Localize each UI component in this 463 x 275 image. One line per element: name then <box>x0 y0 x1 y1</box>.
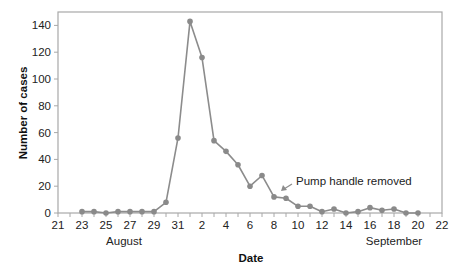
data-point-marker <box>163 199 169 205</box>
data-point-marker <box>247 183 253 189</box>
x-tick-label: 16 <box>364 219 377 231</box>
y-axis-ticks: 020406080100120140 <box>32 19 58 219</box>
x-tick-label: 31 <box>172 219 185 231</box>
month-label: September <box>366 235 422 247</box>
data-point-marker <box>235 162 241 168</box>
y-axis-title: Number of cases <box>17 67 29 160</box>
annotation: Pump handle removed <box>281 175 412 191</box>
data-point-marker <box>283 195 289 201</box>
x-tick-label: 22 <box>436 219 449 231</box>
data-point-marker <box>103 210 109 216</box>
data-point-marker <box>211 138 217 144</box>
y-tick-label: 40 <box>38 153 51 165</box>
data-point-marker <box>355 209 361 215</box>
data-point-marker <box>391 206 397 212</box>
x-tick-label: 10 <box>292 219 305 231</box>
x-tick-label: 2 <box>199 219 205 231</box>
x-tick-label: 8 <box>271 219 277 231</box>
x-tick-label: 27 <box>124 219 137 231</box>
data-point-marker <box>175 135 181 141</box>
data-point-marker <box>115 209 121 215</box>
x-tick-label: 12 <box>316 219 329 231</box>
data-point-marker <box>151 209 157 215</box>
x-tick-label: 20 <box>412 219 425 231</box>
data-point-marker <box>139 209 145 215</box>
data-point-marker <box>199 55 205 61</box>
annotation-label: Pump handle removed <box>296 175 412 187</box>
x-axis-title: Date <box>239 252 264 264</box>
data-point-marker <box>79 209 85 215</box>
data-point-marker <box>343 210 349 216</box>
y-tick-label: 60 <box>38 127 51 139</box>
y-tick-label: 80 <box>38 100 51 112</box>
x-tick-label: 21 <box>52 219 65 231</box>
x-tick-label: 18 <box>388 219 401 231</box>
data-point-marker <box>223 149 229 155</box>
y-tick-label: 20 <box>38 180 51 192</box>
y-tick-label: 140 <box>32 19 51 31</box>
x-tick-label: 14 <box>340 219 353 231</box>
x-tick-label: 25 <box>100 219 113 231</box>
month-label: August <box>106 235 143 247</box>
data-point-marker <box>271 194 277 200</box>
data-point-marker <box>307 204 313 210</box>
month-labels: AugustSeptember <box>106 235 422 247</box>
data-point-marker <box>295 204 301 210</box>
data-point-marker <box>367 205 373 211</box>
x-tick-label: 4 <box>223 219 230 231</box>
data-point-marker <box>403 210 409 216</box>
x-tick-label: 6 <box>247 219 253 231</box>
x-tick-label: 23 <box>76 219 89 231</box>
cholera-epidemic-chart: 020406080100120140 212325272931246810121… <box>0 0 463 275</box>
y-tick-label: 0 <box>45 207 51 219</box>
x-axis-ticks: 212325272931246810121416182022 <box>52 213 449 231</box>
y-tick-label: 100 <box>32 73 51 85</box>
data-point-marker <box>319 209 325 215</box>
y-tick-label: 120 <box>32 46 51 58</box>
data-point-marker <box>379 208 385 214</box>
data-point-marker <box>331 206 337 212</box>
data-point-marker <box>127 209 133 215</box>
data-point-marker <box>415 210 421 216</box>
data-point-marker <box>259 173 265 179</box>
data-point-marker <box>91 209 97 215</box>
x-tick-label: 29 <box>148 219 161 231</box>
data-point-marker <box>187 19 193 25</box>
